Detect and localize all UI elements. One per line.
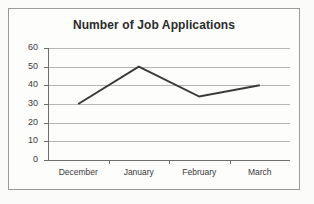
chart-figure: Number of Job Applications 0102030405060… [0, 0, 314, 204]
x-tick-label: December [48, 168, 109, 177]
x-tick-label: March [230, 168, 291, 177]
y-tick-label: 50 [16, 62, 38, 71]
y-tick-label: 30 [16, 99, 38, 108]
gridlines-group [48, 49, 290, 142]
x-tick-marks-group [110, 160, 231, 164]
y-tick-label: 60 [16, 43, 38, 52]
x-tick-label: February [169, 168, 230, 177]
y-tick-marks-group [44, 49, 48, 161]
y-tick-label: 20 [16, 118, 38, 127]
x-tick-label: January [109, 168, 170, 177]
y-tick-label: 40 [16, 80, 38, 89]
y-tick-label: 0 [16, 155, 38, 164]
y-tick-label: 10 [16, 136, 38, 145]
